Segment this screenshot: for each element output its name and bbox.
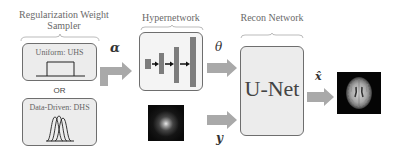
theta-symbol: θ xyxy=(215,40,222,54)
or-label: OR xyxy=(22,86,97,95)
uniform-sampler-label: Uniform: UHS xyxy=(23,48,96,57)
alpha-arrow xyxy=(98,55,138,90)
unet-label: U-Net xyxy=(241,76,303,102)
kspace-image xyxy=(148,105,184,141)
hypernetwork-box xyxy=(139,32,203,91)
brain-scan-icon xyxy=(337,72,381,114)
recon-network-title: Recon Network xyxy=(232,12,312,23)
xhat-symbol: x̂ xyxy=(315,70,322,83)
unet-box: U-Net xyxy=(240,46,304,136)
xhat-arrow xyxy=(307,88,335,106)
sampler-title-line1: Regularization Weight xyxy=(8,9,120,20)
sampler-title-line2: Sampler xyxy=(8,20,120,31)
y-arrow xyxy=(207,111,239,129)
alpha-symbol: α xyxy=(110,40,120,55)
uniform-distribution-icon xyxy=(33,58,88,80)
hypernetwork-brace xyxy=(140,25,204,31)
reconstructed-mri-image xyxy=(337,72,381,114)
uniform-sampler-box: Uniform: UHS xyxy=(22,43,97,81)
sampler-brace xyxy=(20,34,100,42)
datadriven-distribution-icon xyxy=(45,113,75,143)
y-symbol: y xyxy=(216,131,223,145)
datadriven-sampler-box: Data-Driven: DHS xyxy=(22,98,97,146)
hypernetwork-title: Hypernetwork xyxy=(135,12,207,23)
recon-brace xyxy=(240,33,304,39)
sampler-title: Regularization Weight Sampler xyxy=(8,9,120,31)
datadriven-sampler-label: Data-Driven: DHS xyxy=(23,103,96,112)
hypernetwork-layers-icon xyxy=(140,33,202,90)
theta-arrow xyxy=(207,59,239,77)
